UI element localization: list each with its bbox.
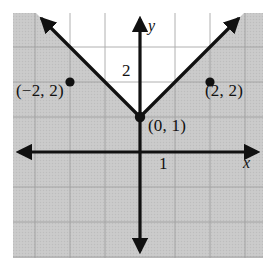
point-marker-vertex: [135, 112, 145, 122]
graph-figure: (−2, 2) (2, 2) (0, 1) 2 1 x y: [0, 0, 280, 272]
point-label-vertex: (0, 1): [148, 117, 186, 134]
plot-area: [13, 13, 263, 258]
x-axis-label: x: [243, 155, 250, 171]
y-axis-tick-label: 2: [122, 62, 131, 79]
shaded-region: [13, 13, 263, 258]
x-axis-tick-label: 1: [159, 155, 168, 172]
graph-canvas: [13, 13, 263, 258]
point-marker-neg2-2: [65, 77, 74, 86]
y-axis-label: y: [148, 18, 155, 34]
point-label-pos2-2: (2, 2): [205, 82, 243, 99]
point-label-neg2-2: (−2, 2): [16, 82, 64, 99]
